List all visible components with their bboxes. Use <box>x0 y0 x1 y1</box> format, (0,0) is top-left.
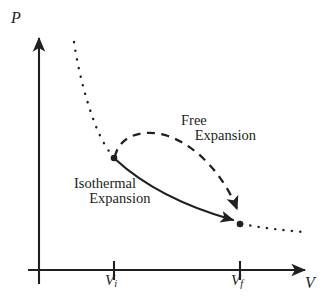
volume-axis-label: V <box>305 275 315 291</box>
isothermal-expansion-label-line1: Isothermal <box>74 175 136 191</box>
tick-label-vi-subscript: i <box>114 278 117 289</box>
pv-diagram-canvas <box>0 0 334 308</box>
isothermal-expansion-label: Isothermal Expansion <box>74 176 150 206</box>
initial-state-point <box>111 155 118 162</box>
free-expansion-label-line1: Free <box>181 112 207 128</box>
free-expansion-label-line2: Expansion <box>181 128 256 143</box>
isothermal-expansion-label-line2: Expansion <box>74 191 150 206</box>
tick-label-vi-base: V <box>105 272 114 288</box>
pv-diagram-figure: P V Vi Vf Free Expansion Isothermal Expa… <box>0 0 334 308</box>
free-expansion-label: Free Expansion <box>181 113 256 143</box>
tick-label-vf-subscript: f <box>240 278 243 289</box>
tick-label-vf-base: V <box>231 272 240 288</box>
isotherm-upper-dotted-curve <box>74 42 114 158</box>
tick-label-vi: Vi <box>105 273 117 290</box>
final-state-point <box>237 221 244 228</box>
isotherm-lower-dotted-curve <box>242 224 303 232</box>
tick-label-vf: Vf <box>231 273 243 290</box>
pressure-axis-label: P <box>11 10 21 26</box>
